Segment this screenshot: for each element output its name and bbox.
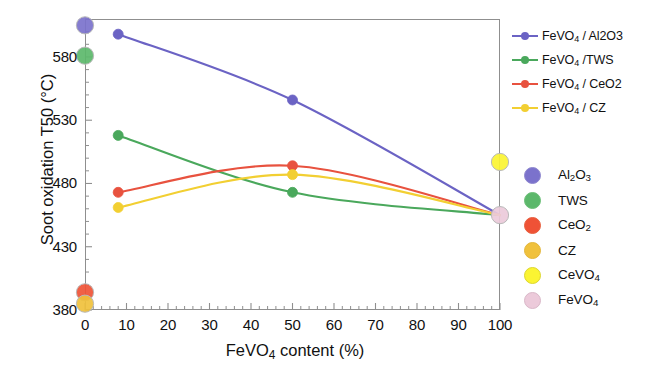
legend-point-swatch-icon [524, 242, 541, 259]
legend-point-swatch-icon [524, 167, 541, 184]
data-point-marker [113, 29, 123, 39]
reference-marker-fevo4 [491, 207, 508, 224]
x-tick-label: 40 [236, 316, 266, 333]
chart-figure: 380430480530580 0102030405060708090100 S… [0, 0, 658, 369]
legend-point-item-3[interactable]: CZ [524, 238, 658, 263]
data-point-marker [288, 187, 298, 197]
x-tick-label: 50 [278, 316, 308, 333]
legend-point-item-1[interactable]: TWS [524, 188, 658, 213]
series-line-2 [118, 165, 500, 215]
legend-series-item-0[interactable]: FeVO4 / Al2O3 [512, 24, 658, 48]
legend-point-label: CeVO4 [558, 267, 600, 283]
x-tick-label: 10 [112, 316, 142, 333]
x-tick-label: 90 [444, 316, 474, 333]
legend-series-item-3[interactable]: FeVO4 / CZ [512, 96, 658, 120]
legend-line-swatch-icon [512, 102, 538, 114]
legend-point-item-2[interactable]: CeO2 [524, 213, 658, 238]
legend-point-swatch-icon [524, 217, 541, 234]
legend-point-item-5[interactable]: FeVO4 [524, 288, 658, 313]
legend-line-swatch-icon [512, 54, 538, 66]
reference-marker-cz [76, 295, 93, 312]
series-line-0 [118, 34, 500, 215]
x-tick-label: 70 [361, 316, 391, 333]
reference-marker-tws [76, 47, 93, 64]
x-tick-label: 20 [153, 316, 183, 333]
legend-point-label: CeO2 [558, 217, 591, 233]
legend-point-swatch-icon [524, 292, 541, 309]
data-point-marker [113, 203, 123, 213]
legend-point-label: TWS [558, 193, 588, 208]
legend-point-swatch-icon [524, 267, 541, 284]
legend-point-label: FeVO4 [558, 292, 598, 308]
data-point-marker [288, 170, 298, 180]
data-point-marker [113, 187, 123, 197]
x-tick-label: 30 [195, 316, 225, 333]
legend-point-item-0[interactable]: Al2O3 [524, 163, 658, 188]
legend-line-swatch-icon [512, 30, 538, 42]
x-axis-title: FeVO4 content (%) [150, 341, 440, 362]
legend-series-item-1[interactable]: FeVO4 /TWS [512, 48, 658, 72]
x-tick-label: 100 [485, 316, 515, 333]
data-point-marker [288, 95, 298, 105]
legend-series-label: FeVO4 /TWS [542, 53, 613, 68]
legend-series-item-2[interactable]: FeVO4 / CeO2 [512, 72, 658, 96]
legend-series-label: FeVO4 / Al2O3 [542, 29, 623, 44]
x-tick-label: 0 [70, 316, 100, 333]
legend-point-swatch-icon [524, 192, 541, 209]
legend-series-label: FeVO4 / CeO2 [542, 77, 622, 92]
data-point-marker [113, 130, 123, 140]
legend-series: FeVO4 / Al2O3FeVO4 /TWSFeVO4 / CeO2FeVO4… [512, 24, 658, 120]
x-tick-label: 80 [402, 316, 432, 333]
legend-point-label: Al2O3 [558, 167, 591, 183]
series-lines-group [118, 34, 500, 215]
legend-reference-points: Al2O3TWSCeO2CZCeVO4FeVO4 [524, 163, 658, 313]
reference-marker-al2o3 [76, 17, 93, 34]
legend-point-label: CZ [558, 243, 576, 258]
legend-point-item-4[interactable]: CeVO4 [524, 263, 658, 288]
x-tick-label: 60 [319, 316, 349, 333]
legend-series-label: FeVO4 / CZ [542, 101, 606, 116]
legend-line-swatch-icon [512, 78, 538, 90]
y-axis-title: Soot oxidation T50 (°C) [38, 30, 57, 290]
reference-marker-cevo4 [491, 153, 508, 170]
